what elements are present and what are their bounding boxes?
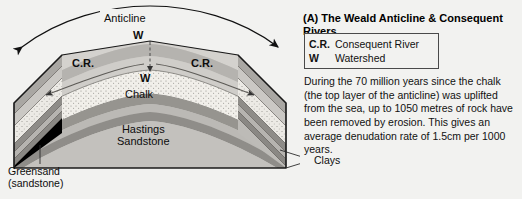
panel-body-text: During the 70 million years since the ch… [304, 75, 518, 157]
legend-key-w: W [309, 51, 335, 65]
label-greensand: Greensand (sandstone) [8, 166, 63, 190]
label-consequent-river-left: C.R. [72, 57, 94, 69]
figure-root: Anticline W C.R. C.R. W Chalk Hastings S… [0, 0, 522, 199]
label-chalk: Chalk [125, 88, 153, 100]
legend-key-cr: C.R. [309, 37, 335, 51]
legend-item-consequent-river: C.R. Consequent River [309, 37, 433, 51]
label-consequent-river-right: C.R. [191, 57, 213, 69]
label-greensand-line1: Greensand [8, 165, 60, 177]
geological-block-diagram: Anticline W C.R. C.R. W Chalk Hastings S… [0, 0, 300, 199]
label-greensand-line2: (sandstone) [8, 177, 63, 189]
legend-item-watershed: W Watershed [309, 51, 433, 65]
legend-box: C.R. Consequent River W Watershed [304, 33, 439, 69]
legend-value-cr: Consequent River [335, 37, 419, 51]
label-watershed-surface: W [140, 72, 150, 84]
label-watershed-crest: W [133, 29, 143, 41]
legend-value-w: Watershed [335, 51, 385, 65]
label-hastings-line2: Sandstone [117, 135, 170, 147]
label-hastings-line1: Hastings [122, 123, 165, 135]
label-anticline: Anticline [104, 12, 146, 24]
label-hastings-sandstone: Hastings Sandstone [117, 123, 170, 148]
text-panel: (A) The Weald Anticline & Consequent Riv… [300, 0, 522, 199]
